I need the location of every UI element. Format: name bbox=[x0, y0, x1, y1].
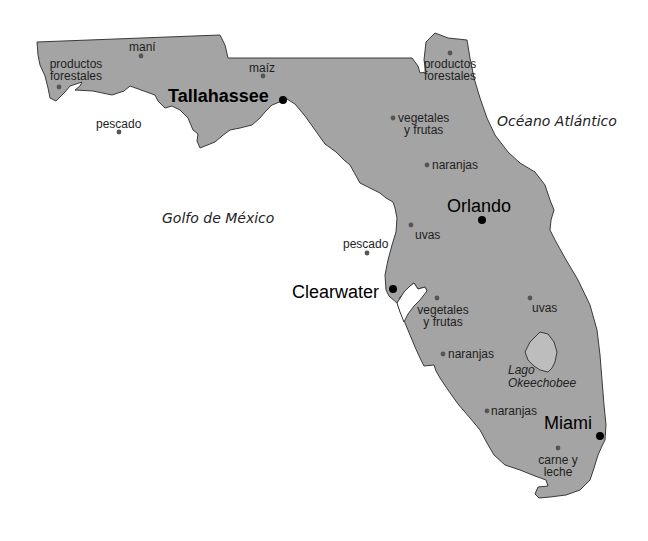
product-forest-west: productos forestales bbox=[50, 58, 103, 82]
product-forest-northeast: productos forestales bbox=[424, 58, 477, 82]
label-gulf-of-mexico: Golfo de México bbox=[162, 210, 274, 226]
florida-land bbox=[37, 33, 606, 498]
city-clearwater: Clearwater bbox=[292, 283, 379, 301]
product-grapes-east: uvas bbox=[532, 302, 557, 314]
product-oranges-central: naranjas bbox=[448, 348, 494, 360]
product-line2: forestales bbox=[50, 70, 103, 82]
label-atlantic-ocean: Océano Atlántico bbox=[497, 113, 617, 129]
product-fish-gulf: pescado bbox=[343, 238, 388, 250]
product-oranges-north: naranjas bbox=[432, 159, 478, 171]
product-line2: leche bbox=[538, 466, 577, 478]
product-oranges-south: naranjas bbox=[491, 405, 537, 417]
product-fish-panhandle: pescado bbox=[96, 118, 141, 130]
product-peanuts: maní bbox=[129, 41, 156, 53]
city-miami: Miami bbox=[544, 414, 592, 432]
product-line2: y frutas bbox=[398, 124, 449, 136]
city-tallahassee: Tallahassee bbox=[168, 87, 269, 105]
product-vegetables-south: vegetales y frutas bbox=[417, 304, 468, 328]
product-line2: y frutas bbox=[417, 316, 468, 328]
product-line2: forestales bbox=[424, 70, 477, 82]
label-lake-okeechobee: Lago Okeechobee bbox=[508, 364, 576, 390]
product-corn: maíz bbox=[249, 62, 275, 74]
product-grapes-central: uvas bbox=[415, 229, 440, 241]
lake-name-line2: Okeechobee bbox=[508, 377, 576, 390]
city-orlando: Orlando bbox=[447, 197, 511, 215]
product-vegetables-north: vegetales y frutas bbox=[398, 112, 449, 136]
product-meat-dairy: carne y leche bbox=[538, 454, 577, 478]
